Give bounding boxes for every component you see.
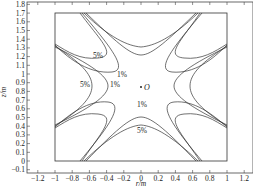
y-tick-label: 1.8 (16, 0, 26, 9)
y-tick-label: 1.5 (16, 26, 26, 35)
x-tick-label: 0.2 (154, 174, 164, 183)
y-tick-label: 0.4 (16, 122, 26, 131)
y-tick-label: 0.2 (16, 139, 26, 148)
x-tick-label: −1.2 (31, 174, 45, 183)
x-tick-label: −0.6 (83, 174, 97, 183)
y-tick-label: 0.7 (16, 96, 26, 105)
annotation-1pct-bottom: 1% (137, 100, 147, 109)
x-tick-label: 0.8 (205, 174, 215, 183)
center-point-marker (140, 86, 142, 88)
y-tick-label: 1.7 (16, 9, 26, 18)
y-tick-label: 0.8 (16, 87, 26, 96)
y-tick-label: −0.1 (11, 165, 25, 174)
annotation-1pct-top: 1% (117, 70, 127, 79)
axes-frame (27, 2, 253, 173)
contour-1pct-bottom-right (167, 102, 227, 161)
y-tick-label: 1.6 (16, 17, 26, 26)
chart-svg: −0.100.10.20.30.40.50.60.70.80.911.11.21… (0, 0, 253, 187)
x-tick-label: 1.2 (240, 174, 250, 183)
center-point-label: O (144, 83, 150, 92)
contour-right-inner (174, 47, 227, 125)
y-tick-label: 0.6 (16, 104, 26, 113)
x-tick-label: −1 (51, 174, 59, 183)
y-tick-label: 1.4 (16, 35, 26, 44)
y-tick-label: 0.1 (16, 148, 26, 157)
x-tick-label: 0.4 (171, 174, 181, 183)
annotation-5pct-top: 5% (93, 51, 103, 60)
y-tick-label: 0 (21, 157, 25, 166)
x-tick-label: −0.2 (117, 174, 131, 183)
annotation-5pct-left: 5% (80, 80, 90, 89)
contour-top-inner (86, 13, 196, 55)
contour-1pct-bottom-left (55, 102, 115, 161)
contour-chart: −0.100.10.20.30.40.50.60.70.80.911.11.21… (0, 0, 253, 187)
y-tick-label: 1 (21, 70, 25, 79)
x-tick-label: −0.8 (65, 174, 79, 183)
x-tick-label: −0.4 (100, 174, 114, 183)
y-tick-label: 0.5 (16, 113, 26, 122)
y-tick-label: 1.3 (16, 43, 26, 52)
y-tick-label: 1.2 (16, 52, 26, 61)
contour-top-left-outer (84, 13, 140, 76)
contour-bottom-inner (86, 117, 196, 161)
y-tick-label: 1.1 (16, 61, 26, 70)
annotation-1pct-left: 1% (110, 80, 120, 89)
y-axis-label: z/m (0, 86, 8, 98)
x-tick-label: 0.6 (188, 174, 198, 183)
x-axis-label: r/m (136, 179, 147, 187)
y-tick-label: 0.3 (16, 130, 26, 139)
contour-top-outer (84, 13, 198, 47)
x-axis-ticks: −1.2−1−0.8−0.6−0.4−0.200.20.40.60.811.2 (31, 2, 249, 183)
x-tick-label: 1 (225, 174, 229, 183)
y-tick-label: 0.9 (16, 78, 26, 87)
annotation-5pct-bottom: 5% (137, 126, 147, 135)
